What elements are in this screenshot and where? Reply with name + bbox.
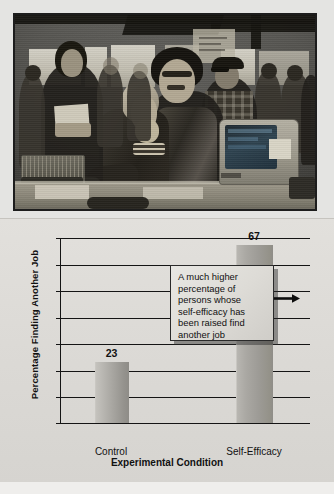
photograph-frame: [13, 13, 317, 211]
callout-line-1: A much higher: [178, 271, 267, 283]
xtick-label-self-efficacy: Self-Efficacy: [207, 446, 301, 457]
callout-annotation: A much higher percentage of persons whos…: [170, 265, 274, 341]
callout-line-2: percentage of: [178, 283, 267, 295]
x-axis-line: [60, 423, 310, 424]
bar-chart-panel: Percentage Finding Another Job: [0, 218, 334, 483]
callout-line-3: persons whose: [178, 294, 267, 306]
gridline-70: [60, 238, 310, 239]
sticky-note: [269, 139, 291, 159]
photograph-image: [15, 15, 315, 209]
page-bottom-margin: [0, 482, 334, 494]
callout-arrow-icon: [274, 294, 300, 303]
bar-value-control: 23: [95, 347, 128, 359]
plot-area: 70 60 50 40 30 20 10 0 23 67 Control Sel…: [60, 238, 310, 424]
callout-line-5: been raised find: [178, 317, 267, 329]
x-axis-title: Experimental Condition: [0, 457, 334, 468]
figure-page: Percentage Finding Another Job: [0, 0, 334, 494]
callout-line-4: self-efficacy has: [178, 306, 267, 318]
y-axis-line: [60, 238, 61, 424]
y-axis-title: Percentage Finding Another Job: [29, 225, 40, 425]
callout-line-6: another job: [178, 329, 267, 341]
xtick-label-control: Control: [71, 446, 151, 457]
photograph-panel: [0, 0, 334, 218]
chart-canvas: Percentage Finding Another Job: [0, 219, 334, 483]
bar-value-self-efficacy: 67: [236, 230, 272, 242]
bar-control: [95, 362, 129, 423]
